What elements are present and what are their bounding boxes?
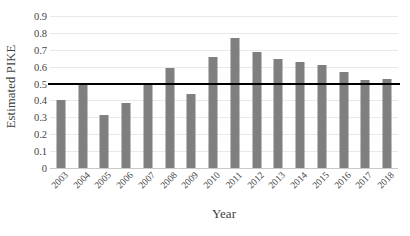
bar-slot	[202, 16, 224, 168]
x-axis-tick-label: 2013	[262, 170, 287, 195]
bar-slot	[224, 16, 246, 168]
bar	[339, 72, 348, 168]
pike-threshold-line	[48, 83, 400, 85]
x-axis-tick-label: 2009	[175, 170, 200, 195]
bar-slot	[268, 16, 290, 168]
bar-slot	[137, 16, 159, 168]
bar	[187, 94, 196, 168]
x-axis-tick-label: 2018	[371, 170, 396, 195]
pike-bar-chart: Estimated PIKE 00.10.20.30.40.50.60.70.8…	[0, 0, 410, 236]
bar-slot	[311, 16, 333, 168]
x-axis-tick-labels: 2003200420052006200720082009201020112012…	[50, 170, 398, 210]
plot-area	[50, 16, 398, 168]
y-axis-tick-label: 0.8	[34, 27, 47, 38]
x-axis-tick-label: 2012	[240, 170, 265, 195]
y-axis-tick-label: 0.6	[34, 61, 47, 72]
bar-slot	[159, 16, 181, 168]
bar	[78, 84, 87, 168]
y-axis-title-text: Estimated PIKE	[5, 44, 20, 128]
x-axis-title: Year	[50, 206, 398, 222]
y-axis-tick-label: 0.7	[34, 44, 47, 55]
x-axis-tick-label: 2007	[131, 170, 156, 195]
bar-slot	[376, 16, 398, 168]
y-axis-tick-label: 0.1	[34, 146, 47, 157]
y-axis-tick-label: 0.4	[34, 95, 47, 106]
bar-slot	[289, 16, 311, 168]
bar-slot	[115, 16, 137, 168]
y-axis-tick-label: 0.3	[34, 112, 47, 123]
bar-slot	[72, 16, 94, 168]
x-axis-tick-label: 2011	[218, 170, 243, 195]
bar	[122, 103, 131, 168]
y-axis-tick-label: 0	[42, 163, 47, 174]
bar	[361, 80, 370, 168]
bar	[296, 62, 305, 168]
x-axis-title-text: Year	[212, 206, 236, 221]
x-axis-tick-label: 2015	[305, 170, 330, 195]
bar	[100, 115, 109, 168]
x-axis-tick-label: 2008	[153, 170, 178, 195]
x-axis-tick-label: 2010	[197, 170, 222, 195]
y-axis-tick-label: 0.5	[34, 78, 47, 89]
bar	[143, 84, 152, 168]
x-axis-tick-label: 2014	[284, 170, 309, 195]
bar	[274, 59, 283, 168]
bar	[56, 100, 65, 168]
bar-slot	[246, 16, 268, 168]
bar	[230, 38, 239, 168]
bar-slot	[94, 16, 116, 168]
bar-slot	[181, 16, 203, 168]
bar	[317, 65, 326, 168]
bar	[209, 57, 218, 168]
x-axis-tick-label: 2005	[88, 170, 113, 195]
bar-slot	[50, 16, 72, 168]
y-axis-tick-label: 0.9	[34, 11, 47, 22]
y-axis-tick-label: 0.2	[34, 129, 47, 140]
bar-slot	[355, 16, 377, 168]
x-axis-tick-label: 2016	[327, 170, 352, 195]
bars-layer	[50, 16, 398, 168]
y-axis-title: Estimated PIKE	[0, 0, 24, 172]
y-axis-tick-labels: 00.10.20.30.40.50.60.70.80.9	[24, 16, 50, 168]
bar	[252, 52, 261, 168]
x-axis-tick-label: 2003	[44, 170, 69, 195]
bar	[383, 79, 392, 169]
bar-slot	[333, 16, 355, 168]
x-axis-tick-label: 2017	[349, 170, 374, 195]
x-axis-tick-label: 2004	[66, 170, 91, 195]
x-axis-tick-label: 2006	[110, 170, 135, 195]
